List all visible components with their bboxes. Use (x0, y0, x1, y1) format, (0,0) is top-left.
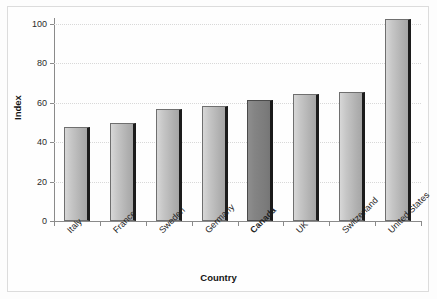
x-tick-mark (375, 221, 376, 226)
bar-switzerland[interactable] (339, 92, 365, 221)
y-axis-title: Index (12, 95, 23, 120)
bar-united-states[interactable] (385, 19, 411, 221)
chart-figure: 020406080100 ItalyFranceSwedenGermanyCan… (0, 0, 437, 299)
x-axis-title: Country (0, 272, 437, 283)
gridline (54, 24, 421, 25)
bar-uk[interactable] (293, 94, 319, 221)
y-tick-label: 80 (0, 58, 47, 68)
y-tick-mark (50, 103, 54, 104)
y-tick-mark (50, 142, 54, 143)
bar-germany[interactable] (202, 106, 228, 221)
x-tick-mark (100, 221, 101, 226)
bar-france[interactable] (110, 123, 136, 222)
x-tick-mark (421, 221, 422, 226)
y-tick-label: 0 (0, 216, 47, 226)
y-tick-label: 100 (0, 19, 47, 29)
y-tick-label: 40 (0, 137, 47, 147)
bar-italy[interactable] (64, 127, 90, 221)
plot-area (54, 18, 421, 221)
bar-sweden[interactable] (156, 109, 182, 221)
x-tick-mark (283, 221, 284, 226)
x-tick-mark (329, 221, 330, 226)
y-tick-mark (50, 63, 54, 64)
y-tick-label: 60 (0, 98, 47, 108)
x-tick-mark (238, 221, 239, 226)
y-tick-mark (50, 24, 54, 25)
x-tick-mark (146, 221, 147, 226)
gridline (54, 63, 421, 64)
gridline (54, 103, 421, 104)
y-tick-label: 20 (0, 177, 47, 187)
x-tick-mark (54, 221, 55, 226)
y-tick-mark (50, 182, 54, 183)
x-tick-mark (192, 221, 193, 226)
bar-canada[interactable] (247, 100, 273, 221)
